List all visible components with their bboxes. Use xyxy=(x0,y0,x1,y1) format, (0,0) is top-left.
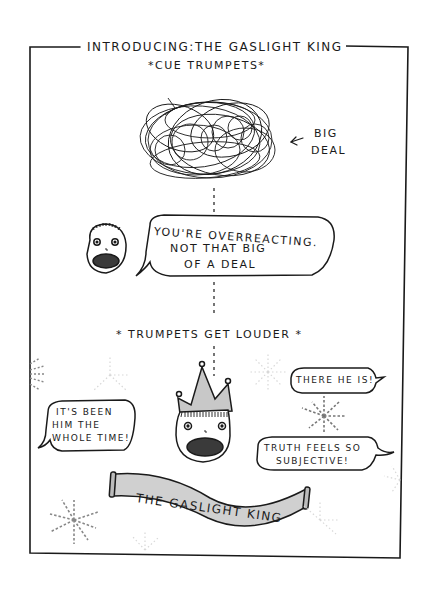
firework-left xyxy=(30,358,46,390)
speech-overreacting-line3: OF A DEAL xyxy=(184,259,256,270)
panel-frame xyxy=(30,46,408,558)
speech-left-line2: HIM THE xyxy=(52,421,101,430)
face-character xyxy=(87,223,126,273)
speech-there-he-is: THERE HE IS! xyxy=(296,376,374,385)
caption-trumpets-louder: * TRUMPETS GET LOUDER * xyxy=(116,329,302,340)
speech-truth-line2: SUBJECTIVE! xyxy=(276,457,349,466)
speech-left-line3: WHOLE TIME! xyxy=(52,434,130,443)
big-deal-label-line2: DEAL xyxy=(311,145,346,156)
firework-right-dark xyxy=(302,396,346,434)
king-character xyxy=(176,362,232,463)
big-deal-label-line1: BIG xyxy=(314,128,338,139)
speech-overreacting-line2: NOT THAT BIG xyxy=(170,243,266,254)
firework-bottom-left xyxy=(50,500,98,544)
speech-left-line1: IT'S BEEN xyxy=(56,408,113,417)
arrow-left-icon xyxy=(291,137,303,145)
comic-title: INTRODUCING:THE GASLIGHT KING xyxy=(84,41,346,53)
scribble-ball xyxy=(138,87,276,187)
speech-truth-line1: TRUTH FEELS SO xyxy=(264,444,361,453)
comic-subtitle: *CUE TRUMPETS* xyxy=(148,60,265,71)
